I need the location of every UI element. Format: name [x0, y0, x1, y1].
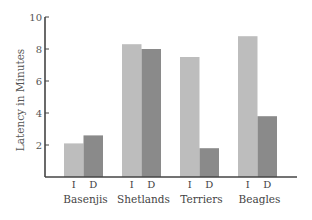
y-ticks-group: 246810: [29, 12, 49, 151]
bar-shetlands-i: [122, 44, 142, 177]
bar-shetlands-d: [142, 49, 162, 177]
category-label: Terriers: [180, 193, 222, 205]
bar-beagles-i: [238, 36, 258, 177]
series-label: D: [147, 179, 155, 190]
x-labels-group: IDBasenjisIDShetlandsIDTerriersIDBeagles: [63, 179, 280, 205]
bar-terriers-i: [180, 57, 200, 177]
bar-basenjis-i: [64, 143, 84, 177]
y-axis-title: Latency in Minutes: [14, 49, 26, 152]
series-label: I: [72, 179, 76, 190]
y-tick-label: 2: [36, 140, 42, 151]
y-tick-label: 10: [29, 12, 42, 23]
bar-terriers-d: [200, 148, 220, 177]
bar-chart: Latency in Minutes 246810 IDBasenjisIDSh…: [0, 0, 312, 220]
y-tick-label: 6: [36, 76, 42, 87]
bar-beagles-d: [258, 116, 278, 177]
series-label: I: [130, 179, 134, 190]
series-label: D: [205, 179, 213, 190]
series-label: I: [246, 179, 250, 190]
bars-group: [64, 36, 277, 177]
series-label: D: [89, 179, 97, 190]
y-tick-label: 8: [36, 44, 42, 55]
category-label: Basenjis: [63, 193, 107, 205]
y-tick-label: 4: [36, 108, 42, 119]
category-label: Beagles: [239, 193, 281, 205]
bar-basenjis-d: [84, 135, 104, 177]
series-label: D: [263, 179, 271, 190]
series-label: I: [188, 179, 192, 190]
category-label: Shetlands: [117, 193, 170, 205]
